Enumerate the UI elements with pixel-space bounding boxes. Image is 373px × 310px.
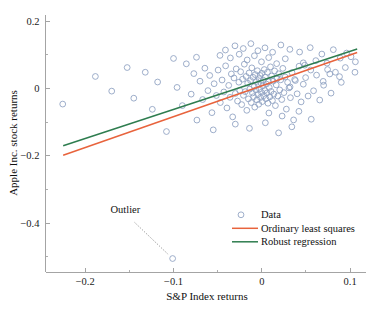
y-tick-label-1: 0 xyxy=(34,83,39,94)
legend-label-2: Robust regression xyxy=(261,236,337,247)
x-tick-label-0: −0.2 xyxy=(76,276,95,287)
y-tick-label-3: −0.4 xyxy=(20,218,40,229)
outlier-label: Outlier xyxy=(111,204,141,215)
y-tick-label-0: 0.2 xyxy=(26,16,39,27)
figure-container: −0.2−0.100.1 0.20−0.2−0.4 Outlier DataOr… xyxy=(0,0,373,310)
y-tick-label-2: −0.2 xyxy=(20,150,39,161)
plot-background xyxy=(0,0,373,310)
x-axis-title: S&P Index returns xyxy=(166,290,247,302)
legend-label-0: Data xyxy=(261,209,281,220)
scatter-plot: −0.2−0.100.1 0.20−0.2−0.4 Outlier DataOr… xyxy=(0,0,373,310)
legend-label-1: Ordinary least squares xyxy=(261,223,355,234)
x-tick-label-3: 0.1 xyxy=(344,276,357,287)
y-axis-title: Apple Inc. stock returns xyxy=(7,90,19,196)
x-tick-label-1: −0.1 xyxy=(164,276,183,287)
x-tick-label-2: 0 xyxy=(259,276,264,287)
